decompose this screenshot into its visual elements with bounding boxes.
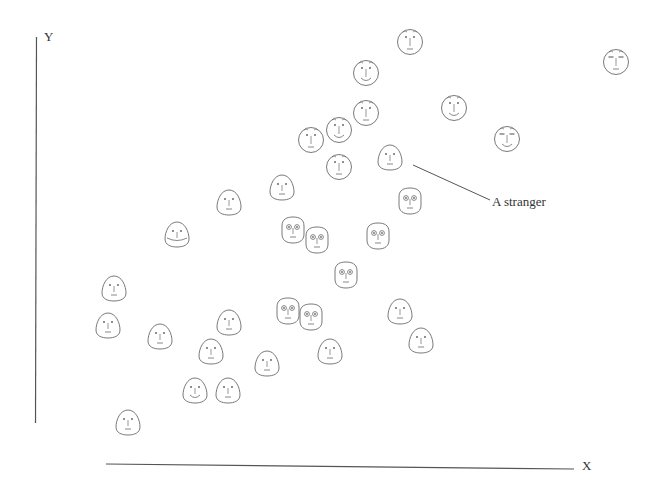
face-icon [199,339,223,364]
face-icon [116,410,140,435]
face-icon [255,351,279,376]
face-icon [327,155,352,180]
face-icon [217,190,241,215]
face-scatter-plot [0,0,664,485]
stranger-face-icon [378,145,402,170]
face-icon [495,127,520,152]
face-icon [216,378,240,403]
face-icon [217,310,241,335]
face-icon [165,222,189,247]
face-icon [299,128,324,153]
face-icon [354,101,379,126]
face-icon [388,299,412,324]
face-icon [327,118,352,143]
face-icon [367,223,389,249]
x-axis-label: X [582,458,591,474]
face-icon [442,96,467,121]
face-icon [409,328,433,353]
x-axis [106,464,574,469]
face-icon [335,262,357,288]
y-axis-label: Y [44,29,53,45]
face-icon [398,30,423,55]
face-icon [300,304,322,330]
annotation-leader-line [413,165,490,200]
face-icon [399,188,421,214]
face-icon [277,298,299,324]
face-icon [183,378,207,403]
face-icon [354,61,379,86]
y-axis [36,37,37,423]
face-icon [102,276,126,301]
face-icon [306,227,328,253]
face-icon [318,339,342,364]
face-icon [270,175,294,200]
stranger-annotation-label: A stranger [492,194,546,210]
face-icon [604,50,629,75]
faces-layer [96,30,629,436]
face-icon [148,324,172,349]
face-icon [282,217,304,243]
face-icon [96,313,120,338]
